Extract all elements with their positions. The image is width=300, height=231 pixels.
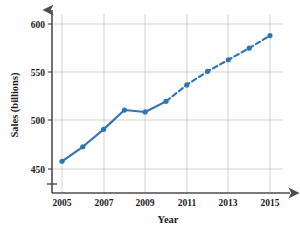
sales-line-chart: 600 550 500 450 2005 2007 2009 2011 2013… <box>0 0 300 231</box>
data-point-2014 <box>247 46 252 51</box>
data-point-2009 <box>143 109 148 114</box>
data-point-2007 <box>101 127 106 132</box>
y-tick-label-500: 500 <box>31 116 46 126</box>
x-axis-title: Year <box>158 214 179 225</box>
data-point-2012 <box>205 69 210 74</box>
data-point-2008 <box>122 107 127 112</box>
x-tick-label-2007: 2007 <box>95 198 114 208</box>
x-tick-label-2005: 2005 <box>53 198 72 208</box>
data-point-2006 <box>80 144 85 149</box>
x-tick-label-2011: 2011 <box>178 198 197 208</box>
data-point-2005 <box>59 159 64 164</box>
x-tick-label-2009: 2009 <box>136 198 155 208</box>
data-point-2015 <box>267 33 272 38</box>
x-tick-label-2013: 2013 <box>219 198 238 208</box>
data-point-2010 <box>163 99 168 104</box>
data-point-2013 <box>226 57 231 62</box>
y-tick-label-450: 450 <box>31 165 46 175</box>
y-axis-title: Sales (billions) <box>9 72 21 138</box>
x-tick-label-2015: 2015 <box>261 198 280 208</box>
data-point-2011 <box>184 82 189 87</box>
chart-svg: 600 550 500 450 2005 2007 2009 2011 2013… <box>0 0 300 231</box>
y-tick-label-550: 550 <box>31 68 46 78</box>
y-tick-label-600: 600 <box>31 20 46 30</box>
chart-background <box>0 0 300 231</box>
